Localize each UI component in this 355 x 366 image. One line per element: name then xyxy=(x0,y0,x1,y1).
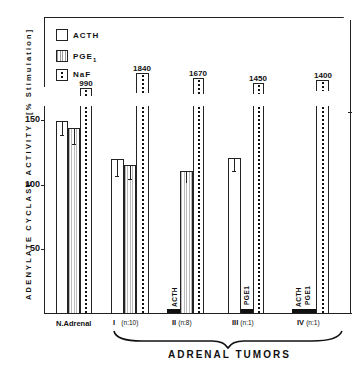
bar-i-naf xyxy=(136,106,149,313)
naf-offscale-cap xyxy=(80,88,92,96)
error-bar xyxy=(186,171,187,183)
bar-iv-acth-pge1 xyxy=(292,309,316,313)
legend-label-pge1: PGE1 xyxy=(73,52,97,63)
legend-swatch-acth xyxy=(56,29,68,41)
y-tick-50 xyxy=(41,249,45,250)
y-axis-label: ADENYLATE CYCLASE ACTIVITY [% Stimulatio… xyxy=(24,27,33,300)
brace-icon xyxy=(112,329,344,349)
bar-i-pge1 xyxy=(124,165,136,313)
error-bar xyxy=(74,128,75,144)
plot-frame-right xyxy=(350,20,351,314)
y-tick-100 xyxy=(41,185,45,186)
y-tick-150 xyxy=(41,120,45,121)
label-iii-pge1: PGE1 xyxy=(243,286,250,305)
y-axis xyxy=(44,106,45,314)
naf-value-ii: 1670 xyxy=(183,69,213,78)
y-tick-label-50: 50 xyxy=(14,243,40,253)
naf-value-i: 1840 xyxy=(127,64,157,73)
x-label-iii: III (n:1) xyxy=(232,318,254,327)
naf-offscale-cap xyxy=(136,73,149,93)
label-iv-acth: ACTH xyxy=(295,287,302,307)
x-label-i: I (n:10) xyxy=(113,318,138,327)
error-cap xyxy=(115,176,119,177)
error-bar xyxy=(62,121,63,135)
adrenal-tumors-label: ADRENAL TUMORS xyxy=(168,349,291,360)
legend-swatch-naf xyxy=(56,69,68,81)
legend-swatch-pge1 xyxy=(56,50,68,62)
dotted-pattern-icon xyxy=(61,71,63,79)
x-label-iv: IV (n:1) xyxy=(297,318,320,327)
bar-nadrenal-naf xyxy=(80,106,92,313)
x-axis xyxy=(44,313,352,314)
error-bar xyxy=(117,159,118,176)
error-cap xyxy=(60,135,64,136)
naf-value-iv: 1400 xyxy=(308,71,338,80)
bar-iii-naf xyxy=(253,106,264,313)
bar-iii-pge1 xyxy=(241,309,253,313)
error-cap xyxy=(128,179,132,180)
y-tick-label-100: 100 xyxy=(14,179,40,189)
x-label-ii: II (n:8) xyxy=(172,318,192,327)
bar-nadrenal-acth xyxy=(56,121,68,313)
naf-offscale-cap xyxy=(316,80,329,91)
bar-iii-acth xyxy=(228,158,241,313)
error-cap xyxy=(72,144,76,145)
y-tick-label-150: 150 xyxy=(14,114,40,124)
bar-iv-naf xyxy=(316,106,329,313)
error-bar xyxy=(130,165,131,179)
bar-nadrenal-pge1 xyxy=(68,128,80,313)
bar-ii-pge1 xyxy=(180,171,193,313)
bar-ii-naf xyxy=(193,106,204,313)
naf-offscale-cap xyxy=(253,83,264,94)
naf-value-iii: 1450 xyxy=(243,74,273,83)
label-iv-pge1: PGE1 xyxy=(304,286,311,305)
label-ii-acth: ACTH xyxy=(171,287,178,307)
naf-value-nadrenal: 990 xyxy=(71,79,101,88)
naf-offscale-cap xyxy=(193,78,204,94)
plot-frame-top xyxy=(44,17,344,18)
error-bar xyxy=(234,158,235,171)
y-axis-upper-segment xyxy=(44,17,45,87)
bar-i-acth xyxy=(111,159,124,313)
legend-label-acth: ACTH xyxy=(73,31,99,40)
legend-label-naf: NaF xyxy=(73,70,91,79)
bar-ii-acth xyxy=(167,309,180,313)
x-label-nadrenal: N.Adrenal xyxy=(56,319,91,328)
error-cap xyxy=(232,171,236,172)
right-tick xyxy=(348,112,352,113)
